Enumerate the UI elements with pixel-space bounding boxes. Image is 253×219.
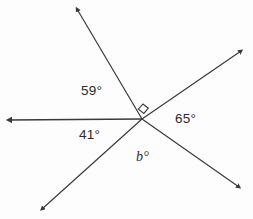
ray-left <box>9 119 142 120</box>
angle-diagram: 59° 41° 65° b° <box>0 0 253 219</box>
ray-lower-right <box>142 119 239 187</box>
ray-upper-left <box>77 9 142 119</box>
ray-upper-right <box>142 51 241 119</box>
angle-label-59: 59° <box>81 84 102 98</box>
angle-label-b: b° <box>136 150 149 164</box>
angle-label-41: 41° <box>79 128 100 142</box>
right-angle-square-icon <box>138 104 148 113</box>
angle-label-65: 65° <box>175 112 196 126</box>
geometry-canvas <box>0 0 253 219</box>
